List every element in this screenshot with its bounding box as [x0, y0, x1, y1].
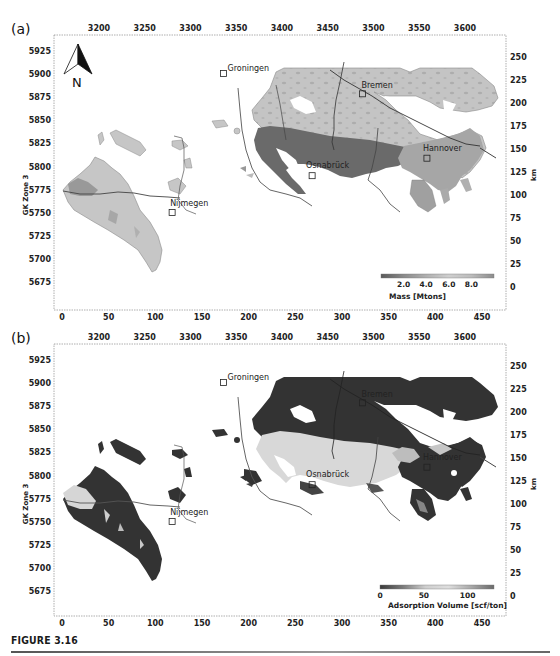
- tick-label-top: 3350: [225, 24, 248, 33]
- panel-label: (a): [11, 21, 31, 37]
- tick-label-left: 5875: [29, 93, 52, 102]
- tick-label-left: 5900: [29, 379, 52, 388]
- tick-label-left: 5850: [29, 425, 52, 434]
- tick-label-bottom: 150: [194, 313, 211, 322]
- colorbar: 050100 Adsorption Volume [scf/ton]: [377, 585, 507, 610]
- city-marker: [169, 209, 175, 215]
- tick-label-right: 125: [510, 477, 527, 486]
- figure-caption: FIGURE 3.16: [11, 634, 78, 647]
- tick-label-bottom: 300: [334, 313, 351, 322]
- city-marker: [220, 380, 226, 386]
- tick-label-top: 3300: [179, 24, 202, 33]
- tick-label-bottom: 400: [427, 619, 444, 628]
- colorbar-tick-label: 2.0: [397, 280, 410, 289]
- tick-label-bottom: 50: [103, 313, 115, 322]
- tick-label-bottom: 200: [240, 313, 257, 322]
- tick-label-top: 3250: [134, 24, 157, 33]
- tick-label-bottom: 300: [334, 619, 351, 628]
- tick-label-right: 50: [510, 237, 522, 246]
- colorbar-tick-label: 50: [419, 591, 429, 600]
- tick-label-left: 5725: [29, 541, 52, 550]
- tick-label-bottom: 250: [287, 619, 304, 628]
- tick-label-left: 5775: [29, 495, 52, 504]
- tick-label-right: 200: [510, 99, 527, 108]
- city-label: Nijmegen: [170, 508, 208, 517]
- colorbar: 2.04.06.08.0 Mass [Mtons]: [381, 274, 494, 301]
- tick-label-left: 5700: [29, 564, 52, 573]
- tick-label-left: 5850: [29, 116, 52, 125]
- y-axis-right-label: km: [530, 169, 538, 181]
- top-axis-ticks: 320032503300335034003450350035503600: [88, 24, 477, 33]
- city-marker: [220, 71, 226, 77]
- tick-label-right: 100: [510, 191, 527, 200]
- tick-label-top: 3600: [454, 333, 477, 342]
- tick-label-left: 5900: [29, 70, 52, 79]
- colorbar-tick-label: 100: [460, 591, 476, 600]
- panel-a: (a) 320032503300335034003450350035503600…: [11, 21, 538, 322]
- tick-label-bottom: 0: [59, 313, 65, 322]
- right-axis-ticks: 2502252001751501251007550250: [510, 53, 527, 292]
- tick-label-top: 3250: [134, 333, 157, 342]
- city-label: Hannover: [423, 453, 463, 462]
- tick-label-top: 3500: [362, 24, 385, 33]
- city-label: Osnabrück: [306, 161, 349, 170]
- tick-label-top: 3550: [408, 24, 431, 33]
- caption-rule: [11, 651, 550, 653]
- colorbar-gradient: [380, 585, 494, 589]
- colorbar-label: Mass [Mtons]: [389, 292, 446, 301]
- tick-label-left: 5800: [29, 472, 52, 481]
- tick-label-left: 5750: [29, 518, 52, 527]
- left-axis-ticks: 5925590058755850582558005775575057255700…: [29, 47, 52, 287]
- region-west-basin: [63, 466, 162, 581]
- tick-label-bottom: 0: [59, 619, 65, 628]
- city-label: Bremen: [362, 390, 393, 399]
- left-axis-ticks: 5925590058755850582558005775575057255700…: [29, 356, 52, 596]
- colorbar-ticks: 050100: [377, 591, 475, 600]
- tick-label-right: 175: [510, 431, 527, 440]
- tick-label-right: 125: [510, 168, 527, 177]
- tick-label-left: 5725: [29, 232, 52, 241]
- tick-label-top: 3400: [271, 333, 294, 342]
- tick-label-top: 3200: [88, 24, 111, 33]
- tick-label-top: 3400: [271, 24, 294, 33]
- tick-label-right: 250: [510, 53, 527, 62]
- city-label: Osnabrück: [306, 470, 349, 479]
- tick-label-bottom: 100: [147, 619, 164, 628]
- north-arrow-icon: N: [64, 44, 92, 90]
- tick-label-right: 175: [510, 122, 527, 131]
- tick-label-left: 5700: [29, 255, 52, 264]
- top-axis-ticks: 320032503300335034003450350035503600: [88, 333, 477, 342]
- tick-label-right: 75: [510, 523, 522, 532]
- tick-label-left: 5675: [29, 587, 52, 596]
- tick-label-left: 5800: [29, 163, 52, 172]
- y-axis-left-label: GK Zone 3: [22, 175, 30, 216]
- tick-label-bottom: 200: [240, 619, 257, 628]
- north-label: N: [72, 75, 82, 90]
- bottom-axis-ticks: 050100150200250300350400450: [59, 619, 491, 628]
- tick-label-right: 25: [510, 260, 522, 269]
- tick-label-right: 100: [510, 500, 527, 509]
- map-regions: [63, 62, 502, 272]
- city-label: Groningen: [227, 373, 269, 382]
- tick-label-right: 250: [510, 362, 527, 371]
- tick-label-bottom: 150: [194, 619, 211, 628]
- tick-label-bottom: 350: [380, 619, 397, 628]
- tick-label-top: 3450: [317, 24, 340, 33]
- colorbar-ticks: 2.04.06.08.0: [397, 280, 478, 289]
- tick-label-bottom: 400: [427, 313, 444, 322]
- tick-label-left: 5825: [29, 448, 52, 457]
- tick-label-right: 75: [510, 214, 522, 223]
- y-axis-left-label: GK Zone 3: [22, 484, 30, 525]
- tick-label-right: 225: [510, 76, 527, 85]
- colorbar-tick-label: 8.0: [465, 280, 478, 289]
- tick-label-left: 5675: [29, 278, 52, 287]
- tick-label-bottom: 350: [380, 313, 397, 322]
- colorbar-tick-label: 6.0: [442, 280, 455, 289]
- tick-label-top: 3550: [408, 333, 431, 342]
- city-label: Groningen: [227, 64, 269, 73]
- tick-label-right: 150: [510, 145, 527, 154]
- tick-label-top: 3300: [179, 333, 202, 342]
- city-label: Hannover: [423, 144, 463, 153]
- tick-label-left: 5925: [29, 47, 52, 56]
- tick-label-top: 3350: [225, 333, 248, 342]
